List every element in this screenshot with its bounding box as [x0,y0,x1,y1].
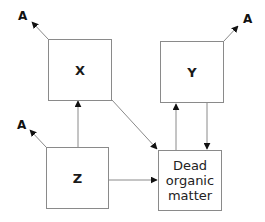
node-y: Y [160,41,224,103]
node-dead-organic-matter: Dead organic matter [158,150,222,211]
arrow-y-to-a [224,26,238,41]
node-x-label: X [75,63,85,78]
arrow-x-to-a [32,22,48,39]
node-z: Z [46,147,109,209]
output-a-from-z: A [17,118,26,132]
node-x: X [48,39,112,101]
arrow-x-to-dom [112,100,157,149]
node-dom-label: Dead organic matter [166,158,214,203]
arrow-z-to-a [30,130,46,147]
output-a-from-y: A [243,12,252,26]
node-z-label: Z [73,171,82,186]
node-y-label: Y [187,65,196,80]
diagram-connectors [0,0,265,222]
output-a-from-x: A [18,9,27,23]
